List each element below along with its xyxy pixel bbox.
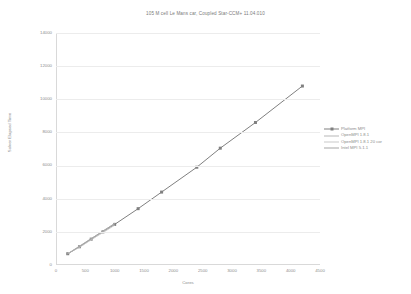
y-axis-tick-label: 14000 bbox=[22, 31, 52, 35]
legend-label: Intel MPI 5.1.1 bbox=[341, 146, 368, 150]
gridline bbox=[56, 232, 320, 233]
x-axis-tick-label: 4500 bbox=[300, 269, 340, 273]
series-layer bbox=[56, 33, 320, 265]
gridline bbox=[56, 199, 320, 200]
gridline bbox=[56, 132, 320, 133]
y-axis-tick-label: 12000 bbox=[22, 64, 52, 68]
chart-container: 105 M cell Le Mans car, Coupled Star-CCM… bbox=[0, 0, 411, 294]
chart-legend: Platform MPIOpenMPI 1.8.1OpenMPI 1.8.1 2… bbox=[324, 126, 408, 152]
legend-swatch-icon bbox=[324, 139, 339, 145]
gridline bbox=[56, 99, 320, 100]
y-axis-label: Solver Elapsed Time bbox=[7, 105, 12, 161]
data-point-marker bbox=[301, 85, 304, 88]
gridline bbox=[56, 33, 320, 34]
x-axis-label: Cores bbox=[56, 280, 320, 285]
legend-swatch-icon bbox=[324, 145, 339, 151]
series-line bbox=[68, 86, 303, 254]
y-axis-tick-label: 8000 bbox=[22, 130, 52, 134]
data-point-marker bbox=[219, 147, 222, 150]
legend-label: Platform MPI bbox=[341, 127, 365, 131]
legend-label: OpenMPI 1.8.1 20 cor bbox=[341, 140, 382, 144]
y-axis-tick-labels: 02000400060008000100001200014000 bbox=[22, 33, 52, 265]
y-axis-tick-label: 10000 bbox=[22, 97, 52, 101]
data-point-marker bbox=[254, 121, 257, 124]
gridline bbox=[56, 166, 320, 167]
gridline bbox=[56, 66, 320, 67]
legend-label: OpenMPI 1.8.1 bbox=[341, 133, 369, 137]
series-intel-mpi-5-1-1 bbox=[68, 224, 115, 254]
legend-item[interactable]: Intel MPI 5.1.1 bbox=[324, 145, 408, 151]
series-line bbox=[68, 224, 115, 254]
plot-area bbox=[56, 33, 320, 265]
series-platform-mpi bbox=[66, 85, 304, 256]
y-axis-tick-label: 0 bbox=[22, 263, 52, 267]
legend-swatch-icon bbox=[324, 133, 339, 139]
y-axis-tick-label: 2000 bbox=[22, 230, 52, 234]
x-axis-tick-labels: 050010001500200025003000350040004500 bbox=[56, 269, 320, 279]
data-point-marker bbox=[160, 191, 163, 194]
chart-title: 105 M cell Le Mans car, Coupled Star-CCM… bbox=[0, 11, 411, 16]
legend-swatch-icon bbox=[324, 126, 339, 132]
data-point-marker bbox=[137, 207, 140, 210]
y-axis-tick-label: 4000 bbox=[22, 197, 52, 201]
y-axis-tick-label: 6000 bbox=[22, 163, 52, 167]
